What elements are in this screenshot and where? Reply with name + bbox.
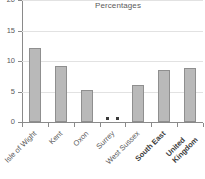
y-tick-label: 5 [0,88,15,96]
x-axis-label-line: Oxon [71,129,90,148]
bar [29,48,41,122]
x-tick-mark [74,123,75,127]
y-tick-mark [18,31,22,32]
bar [184,68,196,122]
x-tick-mark [48,123,49,127]
y-tick-label: 10 [0,57,15,65]
x-axis-label: UnitedKingdom [164,129,200,165]
x-axis-label: Surrey [94,129,116,151]
y-tick-label: 15 [0,27,15,35]
bar [81,90,93,122]
x-tick-mark [203,123,204,127]
gridline [22,0,203,1]
bar [55,66,67,122]
y-tick-label: 0 [0,118,15,126]
x-axis-label: Isle of Wight [3,129,39,165]
x-axis-label-line: Kent [47,129,64,146]
bar [132,85,144,122]
x-axis-label: Oxon [71,129,90,148]
y-tick-mark [18,92,22,93]
no-data-dot [106,117,109,120]
y-tick-label: 20 [0,0,15,4]
no-data-dot [116,117,119,120]
y-tick-mark [18,0,22,1]
x-axis-label: Kent [47,129,64,146]
x-tick-mark [100,123,101,127]
bar-chart: Percentages 05101520 Isle of WightKentOx… [0,0,205,179]
x-axis-label-line: Surrey [94,129,116,151]
x-axis-label-line: Isle of Wight [3,129,39,165]
gridline [22,31,203,32]
gridline [22,92,203,93]
chart-title: Percentages [58,1,178,10]
x-tick-mark [125,123,126,127]
x-axis-line [22,122,203,123]
y-tick-mark [18,61,22,62]
x-tick-mark [177,123,178,127]
no-data-marker [106,116,120,120]
bar [158,70,170,122]
gridline [22,61,203,62]
x-tick-mark [151,123,152,127]
x-tick-mark [22,123,23,127]
